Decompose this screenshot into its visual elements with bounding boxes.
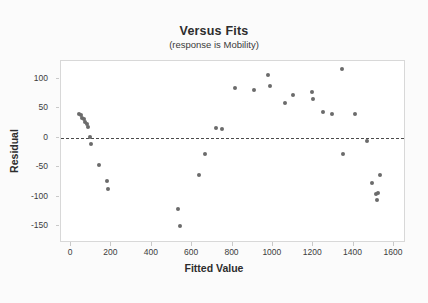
y-tick-mark [56, 196, 59, 197]
y-tick-mark [56, 107, 59, 108]
data-point [365, 139, 369, 143]
plot-area [60, 60, 405, 242]
y-tick-label: 100 [34, 73, 48, 83]
y-tick-label: -50 [36, 161, 48, 171]
x-axis-ticks: 02004006008001000120014001600 [0, 247, 428, 259]
x-tick-label: 800 [224, 247, 238, 257]
x-tick-label: 1000 [262, 247, 281, 257]
data-point [370, 181, 374, 185]
x-tick-mark [151, 242, 152, 246]
x-tick-mark [70, 242, 71, 246]
y-tick-label: -150 [31, 220, 48, 230]
y-tick-label: 0 [43, 132, 48, 142]
data-point [252, 88, 256, 92]
zero-reference-line [61, 138, 404, 139]
data-point [203, 152, 207, 156]
data-point [178, 224, 182, 228]
data-point [106, 187, 110, 191]
data-point [197, 173, 201, 177]
data-point [268, 84, 272, 88]
x-tick-mark [272, 242, 273, 246]
data-point [86, 125, 90, 129]
chart-title: Versus Fits [0, 24, 428, 38]
x-tick-mark [353, 242, 354, 246]
data-point [353, 112, 357, 116]
x-tick-label: 600 [184, 247, 198, 257]
x-axis-label: Fitted Value [0, 262, 428, 274]
x-tick-mark [191, 242, 192, 246]
data-point [89, 142, 93, 146]
data-point [220, 127, 224, 131]
x-tick-label: 1600 [383, 247, 402, 257]
y-axis-ticks: 100500-50-100-150 [0, 60, 56, 242]
data-point [310, 90, 314, 94]
data-point [214, 126, 218, 130]
data-point [341, 152, 345, 156]
x-tick-label: 200 [103, 247, 117, 257]
chart-subtitle: (response is Mobility) [0, 39, 428, 50]
y-tick-mark [56, 166, 59, 167]
x-tick-mark [312, 242, 313, 246]
x-tick-mark [393, 242, 394, 246]
data-point [176, 207, 180, 211]
data-point [105, 179, 109, 183]
data-point [340, 67, 344, 71]
data-point [233, 86, 237, 90]
x-tick-label: 1200 [303, 247, 322, 257]
x-tick-mark [110, 242, 111, 246]
data-point [376, 191, 380, 195]
y-tick-label: 50 [39, 102, 48, 112]
y-tick-mark [56, 137, 59, 138]
y-tick-label: -100 [31, 191, 48, 201]
x-tick-label: 400 [144, 247, 158, 257]
x-tick-label: 1400 [343, 247, 362, 257]
versus-fits-chart: Versus Fits (response is Mobility) Resid… [0, 0, 428, 303]
data-point [97, 163, 101, 167]
data-point [321, 110, 325, 114]
x-tick-mark [232, 242, 233, 246]
data-point [378, 173, 382, 177]
y-tick-mark [56, 225, 59, 226]
data-point [311, 97, 315, 101]
data-point [266, 73, 270, 77]
x-tick-label: 0 [68, 247, 73, 257]
data-point [330, 112, 334, 116]
data-point [375, 198, 379, 202]
data-point [291, 93, 295, 97]
y-tick-mark [56, 78, 59, 79]
data-point [283, 101, 287, 105]
